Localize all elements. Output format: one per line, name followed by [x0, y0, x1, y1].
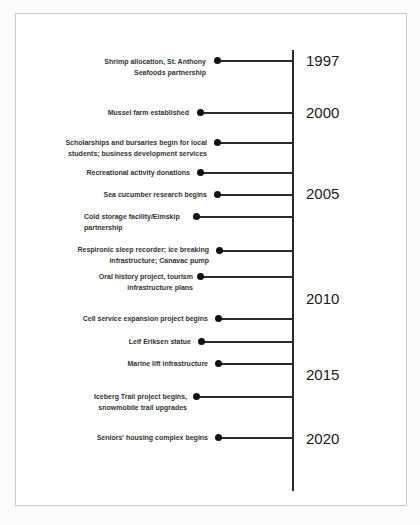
year-label: 1997 [306, 53, 339, 69]
event-dot-icon [197, 169, 204, 176]
year-label: 2020 [306, 431, 339, 447]
event-connector [201, 276, 293, 278]
event-dot-icon [193, 213, 200, 220]
event-label: Marine lift infrastructure [127, 358, 208, 369]
event-label: Iceberg Trail project begins, snowmobile… [94, 391, 187, 413]
event-connector [201, 112, 293, 114]
event-label: Cold storage facility/Eimskip partnershi… [84, 211, 180, 233]
year-label: 2015 [306, 367, 339, 383]
event-dot-icon [197, 109, 204, 116]
event-dot-icon [215, 434, 222, 441]
event-label: Leif Eriksen statue [129, 336, 191, 347]
event-label: Shrimp allocation, St. Anthony Seafoods … [104, 56, 206, 78]
timeline-axis [292, 50, 294, 491]
event-dot-icon [215, 360, 222, 367]
event-connector [220, 250, 293, 252]
event-connector [218, 60, 293, 62]
year-label: 2000 [306, 105, 339, 121]
event-label: Mussel farm established [108, 107, 189, 118]
event-connector [219, 318, 293, 320]
event-connector [218, 194, 293, 196]
event-connector [201, 172, 293, 174]
event-label: Oral history project, tourism infrastruc… [99, 271, 193, 293]
event-connector [197, 396, 293, 398]
event-dot-icon [193, 393, 200, 400]
event-label: Sea cucumber research begins [104, 189, 208, 200]
event-dot-icon [216, 247, 223, 254]
event-label: Seniors' housing complex begins [97, 432, 208, 443]
timeline-frame [15, 13, 407, 506]
event-dot-icon [198, 338, 205, 345]
event-label: Respironic sleep recorder; ice breaking … [78, 244, 210, 266]
event-label: Cell service expansion project begins [83, 313, 208, 324]
year-label: 2010 [306, 291, 339, 307]
event-dot-icon [214, 57, 221, 64]
event-connector [218, 142, 293, 144]
event-connector [197, 216, 293, 218]
event-label: Recreational activity donations [87, 167, 190, 178]
event-dot-icon [214, 191, 221, 198]
event-connector [219, 363, 293, 365]
event-connector [219, 437, 293, 439]
event-dot-icon [214, 139, 221, 146]
event-label: Scholarships and bursaries begin for loc… [65, 137, 207, 159]
event-connector [202, 341, 293, 343]
event-dot-icon [197, 273, 204, 280]
event-dot-icon [215, 315, 222, 322]
year-label: 2005 [306, 186, 339, 202]
